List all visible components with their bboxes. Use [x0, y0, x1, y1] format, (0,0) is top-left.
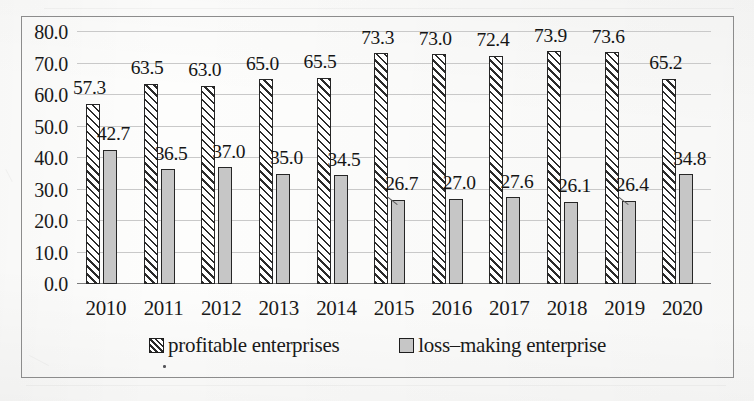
x-axis-tick-label: 2020 — [662, 298, 702, 319]
bar-loss-making-enterprise[interactable] — [391, 200, 405, 284]
chart-legend: profitable enterprises loss–making enter… — [22, 335, 733, 356]
bar-loss-making-enterprise[interactable] — [161, 169, 175, 284]
data-label-loss-making: 36.5 — [155, 144, 188, 164]
y-axis-tick-label: 0.0 — [44, 274, 68, 294]
bar-profitable-enterprises[interactable] — [144, 84, 158, 284]
y-axis-tick-label: 30.0 — [34, 180, 68, 200]
bar-loss-making-enterprise[interactable] — [506, 197, 520, 284]
data-label-loss-making: 34.5 — [328, 150, 361, 170]
bar-profitable-enterprises[interactable] — [662, 79, 676, 284]
x-axis-tick-label: 2019 — [604, 298, 644, 319]
legend-item-profitable-enterprises[interactable]: profitable enterprises — [149, 335, 339, 356]
data-label-profitable: 73.3 — [361, 28, 394, 48]
x-axis-tick-label: 2012 — [201, 298, 241, 319]
bar-group: 63.037.02012 — [192, 32, 250, 284]
bar-profitable-enterprises[interactable] — [259, 79, 273, 284]
legend-item-loss-making-enterprise[interactable]: loss–making enterprise — [399, 335, 606, 356]
bar-group: 65.234.82020 — [653, 32, 711, 284]
bar-group: 65.534.52014 — [308, 32, 366, 284]
bar-group: 73.326.72015 — [365, 32, 423, 284]
chart-container: 0.010.020.030.040.050.060.070.080.057.34… — [21, 16, 734, 378]
bar-group: 73.926.12018 — [538, 32, 596, 284]
bar-profitable-enterprises[interactable] — [432, 54, 446, 284]
bar-profitable-enterprises[interactable] — [317, 78, 331, 284]
data-label-loss-making: 27.6 — [500, 172, 533, 192]
data-label-loss-making: 27.0 — [443, 173, 476, 193]
bar-loss-making-enterprise[interactable] — [564, 202, 578, 284]
data-label-profitable: 73.9 — [534, 26, 567, 46]
legend-label-loss-making-enterprise: loss–making enterprise — [418, 335, 606, 356]
data-label-profitable: 65.2 — [649, 53, 682, 73]
bar-group: 57.342.72010 — [77, 32, 135, 284]
data-label-loss-making: 26.7 — [385, 174, 418, 194]
bar-group: 65.035.02013 — [250, 32, 308, 284]
bar-group: 73.626.42019 — [596, 32, 654, 284]
data-label-profitable: 65.5 — [304, 52, 337, 72]
plot-area: 0.010.020.030.040.050.060.070.080.057.34… — [77, 32, 711, 284]
bar-profitable-enterprises[interactable] — [201, 86, 215, 284]
x-axis-tick-label: 2010 — [86, 298, 126, 319]
x-axis-tick-label: 2014 — [316, 298, 356, 319]
bar-group: 63.536.52011 — [135, 32, 193, 284]
data-label-profitable: 73.6 — [592, 27, 625, 47]
bar-profitable-enterprises[interactable] — [489, 56, 503, 284]
legend-swatch-hatched-icon — [149, 338, 164, 353]
y-axis-tick-label: 40.0 — [34, 148, 68, 168]
x-axis-tick-label: 2013 — [259, 298, 299, 319]
data-label-profitable: 63.0 — [188, 60, 221, 80]
bar-loss-making-enterprise[interactable] — [449, 199, 463, 284]
data-label-profitable: 65.0 — [246, 54, 279, 74]
bar-loss-making-enterprise[interactable] — [334, 175, 348, 284]
bar-loss-making-enterprise[interactable] — [679, 174, 693, 284]
page-artifact-line-bottom — [26, 385, 726, 386]
page-artifact-mark-edge — [5, 169, 12, 182]
x-axis-tick-label: 2017 — [489, 298, 529, 319]
x-axis-tick-label: 2016 — [431, 298, 471, 319]
bar-loss-making-enterprise[interactable] — [276, 174, 290, 284]
data-label-loss-making: 26.4 — [616, 175, 649, 195]
data-label-loss-making: 42.7 — [97, 124, 130, 144]
y-axis-tick-label: 50.0 — [34, 117, 68, 137]
bar-loss-making-enterprise[interactable] — [218, 167, 232, 284]
data-label-profitable: 63.5 — [131, 58, 164, 78]
page-artifact-line-top — [44, 8, 734, 9]
legend-label-profitable-enterprises: profitable enterprises — [168, 335, 339, 356]
x-axis-tick-label: 2011 — [144, 298, 184, 319]
data-label-loss-making: 35.0 — [270, 148, 303, 168]
y-axis-tick-label: 10.0 — [34, 243, 68, 263]
y-axis-tick-label: 80.0 — [34, 22, 68, 42]
legend-swatch-gray-icon — [399, 338, 414, 353]
data-label-profitable: 72.4 — [476, 30, 509, 50]
bar-profitable-enterprises[interactable] — [547, 51, 561, 284]
data-label-loss-making: 34.8 — [673, 149, 706, 169]
data-label-profitable: 57.3 — [73, 78, 106, 98]
bar-loss-making-enterprise[interactable] — [622, 201, 636, 284]
y-axis-tick-label: 70.0 — [34, 54, 68, 74]
y-axis-tick-label: 60.0 — [34, 85, 68, 105]
data-label-loss-making: 26.1 — [558, 176, 591, 196]
bar-group: 72.427.62017 — [480, 32, 538, 284]
y-axis-tick-label: 20.0 — [34, 211, 68, 231]
bar-group: 73.027.02016 — [423, 32, 481, 284]
data-label-loss-making: 37.0 — [212, 142, 245, 162]
bar-profitable-enterprises[interactable] — [374, 53, 388, 284]
bar-loss-making-enterprise[interactable] — [103, 150, 117, 285]
x-axis-tick-label: 2015 — [374, 298, 414, 319]
bar-profitable-enterprises[interactable] — [605, 52, 619, 284]
x-axis-tick-label: 2018 — [547, 298, 587, 319]
data-label-profitable: 73.0 — [419, 29, 452, 49]
